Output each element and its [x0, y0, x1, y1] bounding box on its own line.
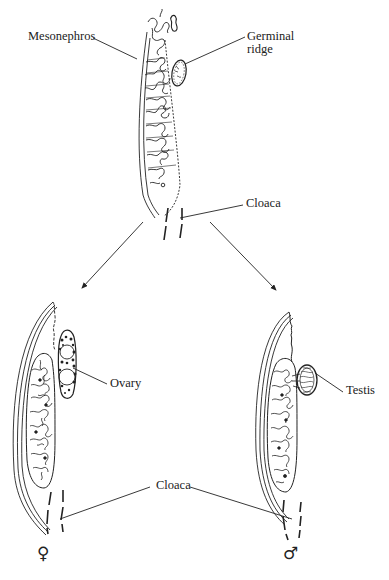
label-cloaca-top: Cloaca: [246, 197, 281, 210]
arrow-to-female: [82, 222, 143, 288]
testis-leader-line: [315, 373, 343, 392]
arrow-to-male: [210, 222, 276, 290]
female-symbol: ♀: [37, 543, 49, 563]
ovary-shape: [58, 330, 76, 398]
diagram-canvas: [0, 0, 389, 580]
label-mesonephros: Mesonephros: [28, 30, 95, 43]
germinal-ridge-shape: [170, 59, 188, 87]
mesonephros-leader-line: [93, 38, 137, 59]
cloaca-top-leader-line: [180, 205, 243, 218]
male-mesonephros: [256, 312, 301, 540]
label-ovary: Ovary: [110, 377, 141, 390]
label-germinal-ridge-line2: ridge: [247, 43, 273, 56]
ovary-leader-line: [73, 368, 107, 384]
indifferent-mesonephros: [139, 9, 182, 240]
germinal-ridge-leader-line: [185, 37, 245, 64]
female-mesonephros: [13, 302, 63, 535]
cloaca-bottom-leader-line-left: [60, 487, 150, 519]
testis-shape: [297, 365, 317, 395]
label-testis: Testis: [346, 384, 375, 397]
male-symbol: ♂: [283, 543, 298, 563]
label-cloaca-bottom: Cloaca: [156, 479, 191, 492]
